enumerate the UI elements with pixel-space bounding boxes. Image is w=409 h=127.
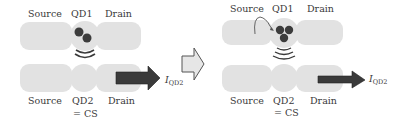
left-panel: IQD2 Source QD1 Drain Source QD2 = CS Dr… bbox=[20, 8, 183, 119]
current-label-sub: QD2 bbox=[169, 79, 184, 87]
left-qd1-drain-block bbox=[96, 22, 141, 50]
right-qd1-drain-block bbox=[296, 20, 343, 45]
electron-icon bbox=[280, 34, 288, 42]
label-qd2: QD2 bbox=[72, 95, 93, 106]
current-label-sub: QD2 bbox=[373, 78, 388, 86]
right-panel: IQD2 Source QD1 Drain Source QD2 = CS Dr… bbox=[222, 3, 387, 118]
right-qd2-dot bbox=[270, 64, 298, 92]
right-qd1-dot bbox=[269, 18, 299, 48]
label-drain: Drain bbox=[105, 8, 132, 19]
label-source: Source bbox=[230, 3, 264, 14]
label-cs: = CS bbox=[274, 107, 299, 118]
coupling-wave-icon bbox=[273, 56, 295, 59]
right-qd2-source-block bbox=[222, 65, 272, 92]
coupling-wave-icon bbox=[275, 52, 293, 55]
label-drain: Drain bbox=[307, 3, 334, 14]
electron-icon bbox=[75, 28, 84, 37]
right-qd1-source-block bbox=[222, 20, 272, 45]
label-qd2: QD2 bbox=[273, 95, 294, 106]
transition-arrow-icon bbox=[182, 48, 204, 80]
label-cs: = CS bbox=[73, 108, 98, 119]
svg-text:IQD2: IQD2 bbox=[368, 73, 387, 86]
left-qd2-source-block bbox=[20, 64, 72, 92]
svg-text:IQD2: IQD2 bbox=[164, 74, 183, 87]
electron-icon bbox=[276, 26, 284, 34]
label-qd1: QD1 bbox=[272, 3, 293, 14]
coupling-wave-icon bbox=[277, 48, 291, 50]
left-qd1-source-block bbox=[20, 22, 72, 50]
electron-icon bbox=[285, 26, 293, 34]
charge-sensing-diagram: IQD2 Source QD1 Drain Source QD2 = CS Dr… bbox=[0, 0, 409, 127]
electron-icon bbox=[83, 34, 92, 43]
left-qd2-dot bbox=[70, 64, 98, 92]
label-drain: Drain bbox=[108, 95, 135, 106]
label-source: Source bbox=[28, 8, 62, 19]
label-qd1: QD1 bbox=[71, 8, 92, 19]
label-source: Source bbox=[28, 95, 62, 106]
label-drain: Drain bbox=[310, 95, 337, 106]
coupling-wave-icon bbox=[75, 54, 95, 58]
label-source: Source bbox=[230, 95, 264, 106]
